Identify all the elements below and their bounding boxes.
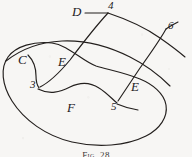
label-point-3: 3 [30, 79, 36, 90]
figure-drawing [0, 0, 192, 157]
label-crossing-E-right: E [131, 80, 139, 93]
arc-4-to-3 [40, 13, 108, 87]
label-curve-C: C [18, 53, 27, 66]
figure-caption: Fig. 28 [0, 150, 192, 157]
arc-6-to-5 [118, 29, 166, 101]
label-crossing-E-left: E [58, 55, 66, 68]
label-curve-D: D [72, 5, 81, 18]
label-point-5: 5 [111, 101, 117, 112]
outer-oval-curve [3, 43, 166, 146]
s-curve-3-to-5 [38, 83, 117, 103]
label-point-4: 4 [108, 0, 114, 11]
label-region-F: F [67, 101, 75, 114]
tail-past-5 [117, 104, 138, 110]
figure-container: D 4 6 C E 3 E 5 F Fig. 28 [0, 0, 192, 157]
label-point-6: 6 [168, 20, 174, 31]
